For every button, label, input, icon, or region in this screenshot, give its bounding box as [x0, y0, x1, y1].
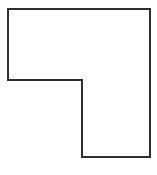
figure-canvas	[0, 0, 157, 175]
l-shape-svg	[0, 0, 157, 175]
